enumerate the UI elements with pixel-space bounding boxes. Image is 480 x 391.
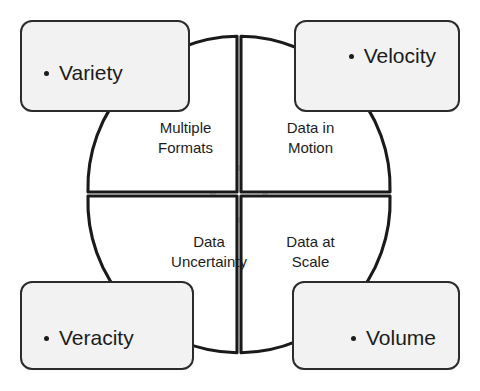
callout-volume-line: Volume xyxy=(351,326,436,350)
diagram-canvas: Multiple Formats Data in Motion Data Unc… xyxy=(0,0,480,391)
callout-variety-line: Variety xyxy=(44,61,123,85)
callout-box-volume[interactable]: Volume xyxy=(292,281,460,370)
callout-box-velocity[interactable]: Velocity xyxy=(294,20,460,112)
callout-label-volume: Volume xyxy=(366,326,436,350)
callout-label-veracity: Veracity xyxy=(59,326,134,350)
callout-label-variety: Variety xyxy=(59,61,123,85)
callout-veracity-line: Veracity xyxy=(44,326,134,350)
callout-box-variety[interactable]: Variety xyxy=(20,20,190,112)
bullet-icon xyxy=(44,71,49,76)
callout-box-veracity[interactable]: Veracity xyxy=(20,281,194,370)
callout-label-velocity: Velocity xyxy=(364,44,436,68)
bullet-icon xyxy=(44,336,49,341)
callout-velocity-line: Velocity xyxy=(349,44,436,68)
bullet-icon xyxy=(349,54,354,59)
bullet-icon xyxy=(351,336,356,341)
